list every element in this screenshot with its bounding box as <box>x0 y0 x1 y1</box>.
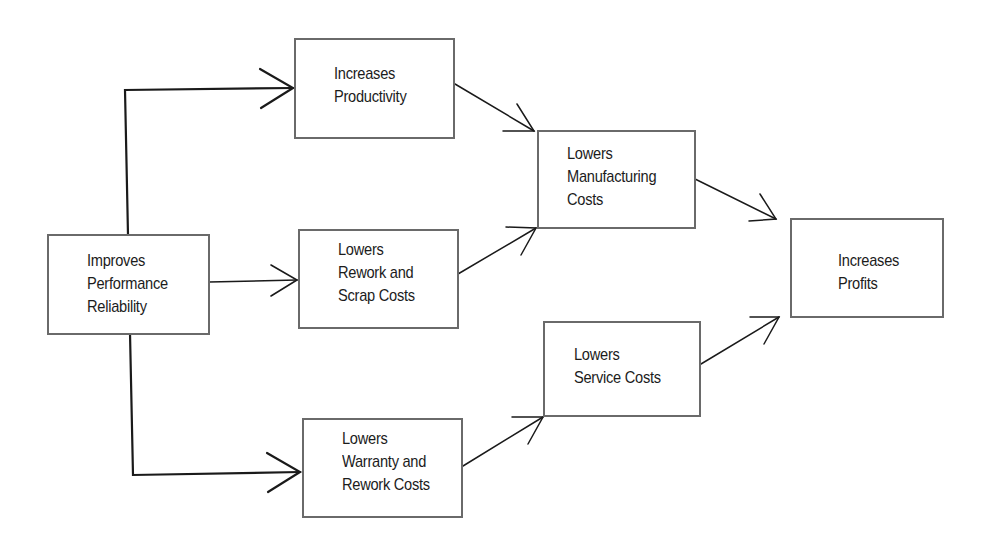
label-line: Lowers <box>338 238 435 261</box>
node-increases-productivity: Increases Productivity <box>294 38 455 139</box>
arrow-warranty-rework-to-service <box>463 417 543 466</box>
label-line: Costs <box>567 188 671 211</box>
node-lowers-service-costs: Lowers Service Costs <box>543 321 701 417</box>
label-line: Scrap Costs <box>338 284 435 307</box>
node-label: Lowers Service Costs <box>574 343 676 389</box>
node-label: Lowers Manufacturing Costs <box>567 142 671 211</box>
node-label: Improves Performance Reliability <box>87 249 186 318</box>
arrow-reliability-to-productivity <box>125 69 293 235</box>
node-label: Lowers Warranty and Rework Costs <box>342 427 439 496</box>
arrow-manufacturing-to-profits <box>689 176 776 221</box>
label-line: Lowers <box>342 427 439 450</box>
label-line: Lowers <box>574 343 676 366</box>
arrow-productivity-to-manufacturing <box>455 84 534 131</box>
label-line: Increases <box>334 62 431 85</box>
label-line: Performance <box>87 272 186 295</box>
label-line: Rework Costs <box>342 473 439 496</box>
node-lowers-warranty-rework-costs: Lowers Warranty and Rework Costs <box>302 418 463 518</box>
label-line: Manufacturing <box>567 165 671 188</box>
label-line: Reliability <box>87 295 186 318</box>
arrow-rework-scrap-to-manufacturing <box>458 227 536 274</box>
label-line: Warranty and <box>342 450 439 473</box>
label-line: Service Costs <box>574 366 676 389</box>
node-improves-performance-reliability: Improves Performance Reliability <box>47 234 210 335</box>
node-label: Increases Productivity <box>334 62 431 108</box>
label-line: Profits <box>838 272 922 295</box>
node-label: Lowers Rework and Scrap Costs <box>338 238 435 307</box>
node-increases-profits: Increases Profits <box>790 218 944 318</box>
label-line: Productivity <box>334 85 431 108</box>
label-line: Increases <box>838 249 922 272</box>
node-lowers-manufacturing-costs: Lowers Manufacturing Costs <box>537 130 696 229</box>
label-line: Improves <box>87 249 186 272</box>
node-label: Increases Profits <box>838 249 922 295</box>
label-line: Lowers <box>567 142 671 165</box>
arrow-service-to-profits <box>701 317 779 364</box>
label-line: Rework and <box>338 261 435 284</box>
arrow-reliability-to-rework-scrap <box>209 265 297 296</box>
node-lowers-rework-scrap-costs: Lowers Rework and Scrap Costs <box>298 229 459 329</box>
flowchart-canvas: Improves Performance Reliability Increas… <box>0 0 981 554</box>
arrow-reliability-to-warranty-rework <box>130 333 300 492</box>
